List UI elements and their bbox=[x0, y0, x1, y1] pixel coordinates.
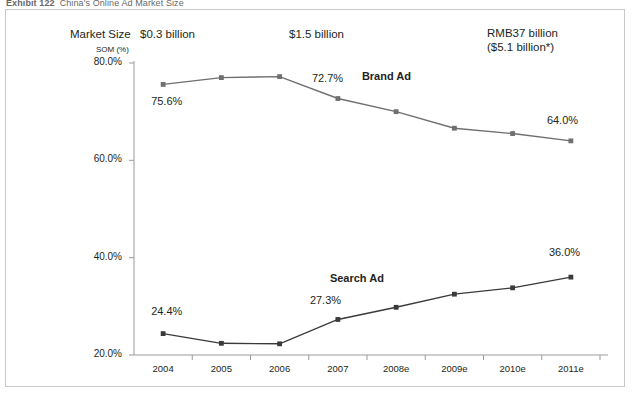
series-label-search-ad: Search Ad bbox=[330, 272, 384, 284]
y-axis-tick-label: 20.0% bbox=[76, 348, 122, 359]
y-axis-tick-label: 80.0% bbox=[76, 56, 122, 67]
data-point-marker bbox=[394, 305, 399, 310]
data-point-marker bbox=[568, 275, 573, 280]
data-point-marker bbox=[335, 317, 340, 322]
data-point-marker bbox=[452, 292, 457, 297]
data-value-label: 75.6% bbox=[151, 95, 182, 107]
line-chart-plot: 20.0%40.0%60.0%80.0%20042005200620072008… bbox=[0, 0, 632, 395]
x-axis-tick-label: 2011e bbox=[541, 363, 601, 374]
series-line-search-ad bbox=[163, 277, 571, 344]
y-axis-tick-label: 60.0% bbox=[76, 153, 122, 164]
x-axis-tick-label: 2007 bbox=[308, 363, 368, 374]
data-value-label: 72.7% bbox=[312, 72, 343, 84]
data-point-marker bbox=[394, 109, 399, 114]
data-value-label: 64.0% bbox=[547, 114, 578, 126]
data-value-label: 36.0% bbox=[549, 246, 580, 258]
data-point-marker bbox=[277, 341, 282, 346]
series-line-brand-ad bbox=[163, 77, 571, 141]
data-point-marker bbox=[277, 74, 282, 79]
x-axis-tick-label: 2010e bbox=[483, 363, 543, 374]
x-axis-tick-label: 2004 bbox=[133, 363, 193, 374]
data-point-marker bbox=[452, 126, 457, 131]
data-point-marker bbox=[510, 285, 515, 290]
data-point-marker bbox=[161, 331, 166, 336]
data-point-marker bbox=[219, 341, 224, 346]
data-point-marker bbox=[219, 75, 224, 80]
data-value-label: 27.3% bbox=[310, 294, 341, 306]
y-axis-tick-label: 40.0% bbox=[76, 251, 122, 262]
x-axis-tick-label: 2008e bbox=[366, 363, 426, 374]
data-point-marker bbox=[510, 131, 515, 136]
x-axis-tick-label: 2005 bbox=[191, 363, 251, 374]
series-label-brand-ad: Brand Ad bbox=[362, 70, 411, 82]
data-point-marker bbox=[335, 96, 340, 101]
data-point-marker bbox=[568, 138, 573, 143]
data-point-marker bbox=[161, 82, 166, 87]
x-axis-tick-label: 2009e bbox=[424, 363, 484, 374]
data-value-label: 24.4% bbox=[151, 305, 182, 317]
x-axis-tick-label: 2006 bbox=[250, 363, 310, 374]
